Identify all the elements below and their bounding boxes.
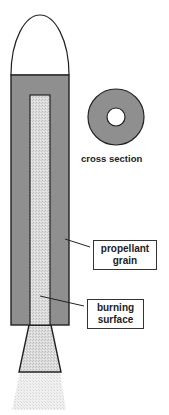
propellant-grain-label-line1: propellant — [94, 243, 156, 255]
nozzle — [19, 325, 61, 372]
burning-surface-label: burning surface — [87, 299, 144, 329]
propellant-grain-label: propellant grain — [93, 240, 157, 270]
nose-cone — [11, 15, 69, 75]
burning-surface-label-line2: surface — [88, 314, 143, 326]
rocket-diagram — [0, 0, 169, 415]
propellant-grain-label-line2: grain — [94, 255, 156, 267]
burning-surface-label-line1: burning — [88, 302, 143, 314]
cross-section-hole — [107, 108, 125, 126]
cross-section-label: cross section — [81, 153, 142, 164]
burning-core — [30, 95, 50, 325]
exhaust-plume — [12, 372, 66, 410]
